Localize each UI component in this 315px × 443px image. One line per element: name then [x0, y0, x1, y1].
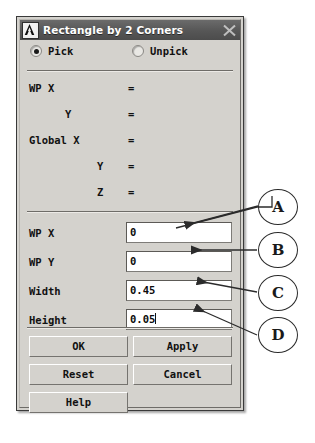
radio-option-unpick[interactable]: Unpick — [132, 45, 188, 57]
dialog-titlebar[interactable]: Rectangle by 2 Corners — [20, 20, 240, 40]
readout-row: Y= — [20, 156, 240, 182]
readout-equals-sign: = — [128, 108, 134, 120]
pick-mode-radio-group: Pick Unpick — [20, 45, 240, 67]
input-value: 0 — [130, 255, 136, 267]
text-cursor — [155, 313, 156, 324]
close-icon[interactable] — [221, 22, 238, 39]
radio-option-pick[interactable]: Pick — [30, 45, 73, 57]
ansys-a-logo-icon — [22, 22, 39, 39]
input-row: WP X0 — [20, 220, 240, 249]
readout-label: WP X — [29, 82, 54, 94]
input-row: WP Y0 — [20, 249, 240, 278]
readout-row: Z= — [20, 182, 240, 208]
ok-button[interactable]: OK — [29, 336, 128, 357]
rectangle-by-2-corners-dialog: Rectangle by 2 Corners Pick — [16, 16, 244, 411]
separator-bottom — [27, 327, 233, 329]
separator-top — [27, 70, 233, 72]
readout-row: WP X= — [20, 78, 240, 104]
dialog-body: Pick Unpick WP X=Y=Global X=Y=Z= WP X0WP… — [20, 40, 240, 407]
readout-equals-sign: = — [128, 134, 134, 146]
separator-middle — [27, 211, 233, 213]
dimension-input-list: WP X0WP Y0Width0.45Height0.05 — [20, 220, 240, 336]
input-value: 0.05 — [130, 313, 156, 325]
input-value: 0 — [130, 226, 136, 238]
input-field-wp-x[interactable]: 0 — [126, 222, 232, 243]
readout-equals-sign: = — [128, 186, 134, 198]
input-label-wp-x: WP X — [29, 227, 54, 239]
readout-label: Y — [97, 160, 103, 172]
cancel-button[interactable]: Cancel — [133, 364, 232, 385]
readout-label: Z — [97, 186, 103, 198]
input-field-width[interactable]: 0.45 — [126, 280, 232, 301]
radio-label-pick: Pick — [48, 45, 73, 57]
readout-equals-sign: = — [128, 82, 134, 94]
apply-button[interactable]: Apply — [133, 336, 232, 357]
radio-label-unpick: Unpick — [150, 45, 188, 57]
coordinate-readout-list: WP X=Y=Global X=Y=Z= — [20, 78, 240, 208]
radio-indicator-unpick[interactable] — [132, 45, 144, 57]
dialog-title: Rectangle by 2 Corners — [43, 24, 221, 36]
input-label-height: Height — [29, 314, 67, 326]
callout-marker-b: B — [258, 232, 298, 268]
input-row: Width0.45 — [20, 278, 240, 307]
dialog-inner-frame: Rectangle by 2 Corners Pick — [19, 19, 241, 408]
radio-indicator-pick[interactable] — [30, 45, 42, 57]
readout-label: Y — [65, 108, 71, 120]
readout-row: Y= — [20, 104, 240, 130]
screenshot-root: Rectangle by 2 Corners Pick — [0, 0, 315, 443]
input-row: Height0.05 — [20, 307, 240, 336]
callout-marker-d: D — [258, 317, 298, 353]
readout-row: Global X= — [20, 130, 240, 156]
input-field-wp-y[interactable]: 0 — [126, 251, 232, 272]
input-label-width: Width — [29, 285, 61, 297]
input-value: 0.45 — [130, 284, 155, 296]
reset-button[interactable]: Reset — [29, 364, 128, 385]
callout-marker-c: C — [258, 275, 298, 311]
readout-equals-sign: = — [128, 160, 134, 172]
input-label-wp-y: WP Y — [29, 256, 54, 268]
readout-label: Global X — [29, 134, 80, 146]
callout-marker-a: A — [258, 189, 298, 225]
help-button[interactable]: Help — [29, 392, 128, 413]
